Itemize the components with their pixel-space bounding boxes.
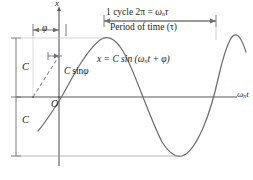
origin-dot (58, 96, 60, 98)
cycle-label-tau: τ (165, 7, 168, 17)
c-sin-phi-amplitude: C (64, 66, 70, 76)
horizontal-axis-time: t (246, 89, 249, 99)
equation-prefix: x = C sin ( (97, 54, 138, 64)
phase-angle-label: φ (42, 24, 47, 34)
cycle-label-omega: ω (155, 7, 162, 17)
period-label-line2: Period of time (τ) (110, 23, 177, 33)
equation-suffix: t + φ) (147, 54, 169, 64)
c-sin-phi-phi: φ (83, 66, 88, 76)
cycle-label-line1: 1 cycle 2π = ωnτ (106, 8, 168, 18)
phase-span-right-arrow (53, 28, 59, 32)
c-sin-phi-label: C sinφ (64, 67, 89, 77)
cycle-label-prefix: 1 cycle 2π = (106, 7, 155, 17)
phase-dashed-line (33, 56, 59, 97)
amplitude-lower-label: C (22, 115, 29, 126)
phase-span-left-arrow (33, 28, 39, 32)
sinusoid-phase-diagram: x ωnt 1 cycle 2π = ωnτ Period of time (τ… (0, 0, 253, 180)
horizontal-axis-label: ωnt (237, 90, 249, 100)
amplitude-upper-label: C (22, 62, 29, 73)
phase-crossing-dot (32, 96, 34, 98)
origin-label: O (51, 99, 58, 109)
equation-label: x = C sin (ωnt + φ) (97, 55, 170, 65)
vertical-axis-label: x (55, 0, 59, 8)
c-sin-phi-sin: sin (72, 66, 83, 76)
